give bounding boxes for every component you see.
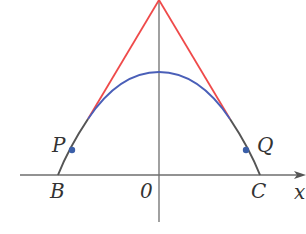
label-x-axis: x	[294, 180, 305, 204]
label-q: Q	[257, 133, 273, 157]
label-p: P	[51, 133, 66, 157]
point-q	[243, 147, 249, 153]
label-origin: 0	[140, 179, 153, 203]
label-c: C	[251, 179, 266, 203]
label-b: B	[49, 179, 65, 203]
tangent-diagram: P Q B 0 C x	[0, 0, 306, 234]
point-p	[69, 147, 75, 153]
right-tangent-line	[159, 0, 230, 119]
left-tangent-line	[88, 0, 159, 119]
